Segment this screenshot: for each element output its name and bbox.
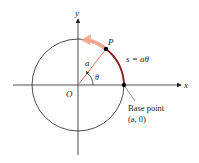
arc-s	[106, 49, 124, 85]
base-point-leader	[125, 87, 135, 101]
direction-arrow	[88, 40, 106, 49]
origin-label: O	[66, 89, 73, 99]
point-p	[104, 47, 108, 51]
base-point-coords: (a, 0)	[128, 114, 146, 124]
angle-arc	[87, 73, 93, 85]
unit-circle-diagram: y x O P a θ s = aθ Base point (a, 0)	[0, 0, 199, 163]
base-point	[122, 83, 126, 87]
base-point-label: Base point	[128, 103, 165, 113]
x-axis-label: x	[183, 80, 188, 90]
arrowhead-icon	[81, 34, 91, 45]
angle-label: θ	[95, 73, 99, 82]
y-axis-label: y	[74, 8, 79, 18]
radius-label: a	[85, 58, 90, 68]
point-p-label: P	[107, 37, 114, 47]
arc-length-label: s = aθ	[126, 54, 150, 64]
